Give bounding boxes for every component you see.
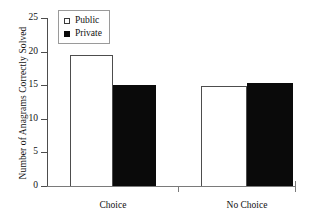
y-axis-tick-label: 15 <box>29 78 39 91</box>
legend-label-private: Private <box>75 27 102 40</box>
y-axis-tick: 25 <box>41 18 47 19</box>
y-axis-tick: 15 <box>41 85 47 86</box>
chart-legend: Public Private <box>58 10 110 44</box>
y-axis-tick-label: 25 <box>29 11 39 24</box>
x-axis-tick <box>295 186 296 192</box>
y-axis-tick-label: 0 <box>33 179 38 192</box>
y-axis-title: Number of Anagrams Correctly Solved <box>18 13 28 193</box>
legend-item-public: Public <box>64 14 102 27</box>
x-axis-group-label: No Choice <box>201 200 293 210</box>
y-axis-tick: 10 <box>41 119 47 120</box>
legend-item-private: Private <box>64 27 102 40</box>
bar-no-choice-public <box>201 86 247 186</box>
y-axis-tick-label: 5 <box>33 145 38 158</box>
y-axis-line <box>47 18 48 186</box>
legend-swatch-public-icon <box>64 18 70 24</box>
y-axis-tick-label: 10 <box>29 112 39 125</box>
y-axis-tick: 5 <box>41 152 47 153</box>
bar-chart-figure: Number of Anagrams Correctly Solved 0510… <box>0 0 323 215</box>
x-axis-tick <box>178 186 179 192</box>
y-axis-tick-label: 20 <box>29 45 39 58</box>
y-axis-tick: 20 <box>41 52 47 53</box>
y-axis-tick: 0 <box>41 186 47 187</box>
legend-swatch-private-icon <box>64 31 70 37</box>
bar-choice-private <box>113 85 156 186</box>
x-axis-group-label: Choice <box>70 200 156 210</box>
legend-label-public: Public <box>75 14 99 27</box>
x-axis-line <box>47 186 296 187</box>
bar-choice-public <box>70 55 113 186</box>
bar-no-choice-private <box>247 83 293 186</box>
